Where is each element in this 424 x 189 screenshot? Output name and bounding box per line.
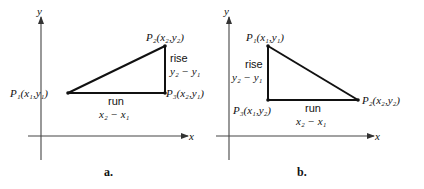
panel-b-point-p1 xyxy=(266,44,270,48)
panel-a-p2-label: P₂(x₂,y₂) xyxy=(146,31,184,43)
panel-b-rise-label: rise xyxy=(245,58,263,70)
panel-a-x-axis-label: x xyxy=(189,130,194,142)
panel-a-rise-label: rise xyxy=(170,52,188,64)
panel-a-run-expression: x₂ − x₁ xyxy=(99,108,129,120)
panel-b-run-expression: x₂ − x₁ xyxy=(296,115,326,127)
panel-a-run-label: run xyxy=(108,95,124,107)
panel-b-p3-label: P₃(x₁,y₂) xyxy=(233,104,271,116)
panel-b-p2-label: P₂(x₂,y₂) xyxy=(362,94,400,106)
panel-b-hypotenuse xyxy=(268,46,358,100)
panel-b-caption: b. xyxy=(297,165,307,180)
panel-a-point-p2 xyxy=(163,44,167,48)
panel-b-point-p3 xyxy=(266,98,270,102)
panel-b-x-axis-label: x xyxy=(375,130,380,142)
panel-a-hypotenuse xyxy=(68,46,165,93)
panel-b-p1-label: P₁(x₁,y₁) xyxy=(246,31,284,43)
panel-a-p1-label: P₁(x₁,y₁) xyxy=(10,87,48,99)
panel-b-y-axis-label: y xyxy=(224,5,229,17)
panel-b-run-label: run xyxy=(305,102,321,114)
panel-b-rise-expression: y₂ − y₁ xyxy=(232,71,262,83)
panel-a-y-axis-label: y xyxy=(37,5,42,17)
panel-a-caption: a. xyxy=(104,165,113,180)
panel-b-point-p2 xyxy=(356,98,360,102)
panel-a-rise-expression: y₂ − y₁ xyxy=(170,65,200,77)
panel-b-graph xyxy=(216,17,374,160)
slope-triangle-figure xyxy=(0,0,424,189)
panel-a-p3-label: P₃(x₂,y₁) xyxy=(166,87,204,99)
panel-a-point-p1 xyxy=(66,91,70,95)
